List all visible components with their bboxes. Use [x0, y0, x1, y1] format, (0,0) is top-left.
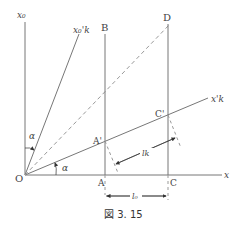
point-a-prime-label: A'	[92, 136, 102, 146]
angle-arc-bottom	[55, 163, 56, 175]
perp-a-prime	[105, 141, 118, 173]
point-d-label: D	[163, 12, 171, 23]
l0-label: l₀	[132, 192, 139, 201]
origin-label: O	[15, 173, 23, 184]
point-c-prime-label: C'	[155, 109, 164, 119]
x0-prime-k-axis	[25, 34, 79, 175]
relativity-diagram: x₀ x₀'k B D x'k C' A' α α O A C x lk l₀ …	[0, 0, 244, 236]
angle-arc-top	[25, 148, 34, 150]
alpha-bottom-label: α	[62, 163, 68, 173]
point-b-label: B	[101, 22, 108, 33]
figure-caption: 図 3. 15	[104, 209, 143, 220]
x-prime-k-label: x'k	[211, 94, 224, 104]
perp-c-prime	[168, 115, 181, 148]
x0-prime-k-label: x₀'k	[73, 25, 90, 35]
point-a-label: A	[97, 178, 105, 188]
point-c-label: C	[170, 178, 177, 188]
x0-label: x₀	[17, 10, 26, 20]
alpha-top-label: α	[29, 131, 35, 141]
x-label: x	[224, 170, 229, 180]
lk-label: lk	[142, 149, 150, 158]
